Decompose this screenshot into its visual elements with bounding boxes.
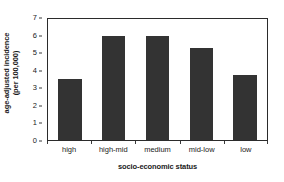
y-axis-tick-mark: [39, 141, 42, 142]
y-axis-tick-mark: [39, 35, 42, 36]
y-axis-tick-mark: [39, 70, 42, 71]
x-axis-title: socio-economic status: [47, 162, 268, 171]
bar-slot: [136, 19, 180, 140]
y-axis-tick-label: 2: [33, 102, 37, 110]
y-axis-tick-mark: [39, 88, 42, 89]
y-axis-tick-mark: [39, 53, 42, 54]
x-axis-tick-label: high-mid: [91, 145, 135, 157]
y-axis-tick-label: 0: [33, 137, 37, 145]
bar-slot: [48, 19, 92, 140]
bar-high: [58, 79, 81, 141]
x-axis-tick-mark: [267, 141, 268, 144]
bar-medium: [146, 36, 169, 140]
y-axis-tick-label: 4: [33, 67, 37, 75]
plot-area: [47, 18, 268, 141]
x-axis-tick-label: mid-low: [180, 145, 224, 157]
x-axis-tick-mark: [180, 141, 181, 144]
y-axis-tick-labels: 01234567: [24, 18, 42, 141]
x-axis-tick-label: low: [224, 145, 268, 157]
y-axis-tick-label: 7: [33, 14, 37, 22]
bar-slot: [179, 19, 223, 140]
y-axis-tick-mark: [39, 105, 42, 106]
y-axis-tick-label: 5: [33, 49, 37, 57]
bar-chart-figure: age-adjusted incidence (per 100,000) 012…: [0, 0, 284, 182]
y-axis-tick-mark: [39, 18, 42, 19]
y-axis-tick-label: 3: [33, 84, 37, 92]
y-axis-tick-label: 6: [33, 32, 37, 40]
x-axis-tick-labels: highhigh-midmediummid-lowlow: [47, 145, 268, 157]
x-axis-tick-mark: [135, 141, 136, 144]
x-axis-tick-mark: [91, 141, 92, 144]
bar-low: [233, 75, 256, 140]
x-axis-tick-mark: [224, 141, 225, 144]
y-axis-tick-label: 1: [33, 119, 37, 127]
y-axis-title: age-adjusted incidence (per 100,000): [0, 0, 22, 145]
x-axis-tick-label: high: [47, 145, 91, 157]
bars-layer: [48, 19, 267, 140]
bar-slot: [223, 19, 267, 140]
bar-mid-low: [190, 48, 213, 140]
y-axis-title-line-2: (per 100,000): [11, 32, 20, 113]
y-axis-title-line-1: age-adjusted incidence: [2, 32, 11, 113]
x-axis-tick-label: medium: [135, 145, 179, 157]
bar-high-mid: [102, 36, 125, 140]
y-axis-tick-mark: [39, 123, 42, 124]
x-axis-tick-mark: [47, 141, 48, 144]
bar-slot: [92, 19, 136, 140]
